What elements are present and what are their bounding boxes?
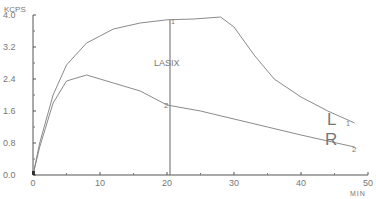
x-tick-label: 0 <box>30 178 35 188</box>
y-tick-label: 0.0 <box>3 170 16 180</box>
x-tick-label: 50 <box>363 178 373 188</box>
x-axis-label: MIN <box>350 190 366 197</box>
x-tick-label: 40 <box>296 178 306 188</box>
y-tick-label: 2.4 <box>3 74 16 84</box>
y-tick-label: 1.6 <box>3 106 16 116</box>
y-tick-label: 3.2 <box>3 42 16 52</box>
y-axis-label: KCPS <box>4 5 26 14</box>
x-tick-label: 10 <box>95 178 105 188</box>
origin-marker <box>32 171 35 175</box>
x-tick-label: 30 <box>229 178 239 188</box>
axes <box>33 15 368 175</box>
y-tick-label: 0.8 <box>3 138 16 148</box>
series-L-label: L <box>327 110 336 129</box>
x-tick-label: 20 <box>162 178 172 188</box>
marker-1-label: 1 <box>346 120 350 127</box>
marker-1-label-lasix: 1 <box>171 18 175 25</box>
x-ticks: 01020304050 <box>30 172 373 188</box>
marker-2-label-lasix: 2 <box>164 101 169 110</box>
series-L-line <box>33 17 355 175</box>
series-R-label: R <box>325 130 337 149</box>
y-ticks: 0.00.81.62.43.24.0 <box>3 10 36 180</box>
lasix-label: LASIX <box>154 58 180 68</box>
marker-2-label: 2 <box>352 145 357 154</box>
renogram-chart: 0.00.81.62.43.24.0 01020304050 KCPS MIN … <box>0 0 376 199</box>
series-R-line <box>33 75 355 175</box>
